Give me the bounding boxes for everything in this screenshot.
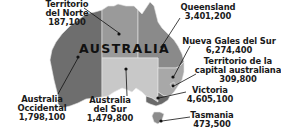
region-population: 1,479,800 <box>80 114 140 123</box>
label-victoria: Victoria 4,605,100 <box>184 86 236 104</box>
region-population: 6,274,400 <box>176 46 281 55</box>
label-south-australia: Australia del Sur 1,479,800 <box>80 96 140 124</box>
map-title: AUSTRALIA <box>79 41 170 56</box>
marker-south-australia <box>124 67 127 70</box>
marker-victoria <box>156 96 159 99</box>
label-new-south-wales: Nueva Gales del Sur 6,274,400 <box>176 37 281 55</box>
region-population: 4,605,100 <box>184 95 236 104</box>
label-act: Territorio de la capital australiana 309… <box>192 57 281 85</box>
region-population: 473,500 <box>186 120 238 129</box>
marker-northern-territory <box>117 32 120 35</box>
region-population: 1,798,100 <box>12 113 72 122</box>
label-western-australia: Australia Occidental 1,798,100 <box>12 95 72 123</box>
marker-new-south-wales <box>171 75 174 78</box>
label-northern-territory: Territorio del Norte 187,100 <box>36 0 98 28</box>
label-queensland: Queensland 3,401,200 <box>168 3 248 21</box>
label-tasmania: Tasmania 473,500 <box>186 111 238 129</box>
region-tasmania <box>152 112 164 124</box>
region-population: 309,800 <box>192 75 281 84</box>
marker-tasmania <box>159 119 162 122</box>
marker-act <box>172 85 175 88</box>
region-population: 3,401,200 <box>168 12 248 21</box>
region-population: 187,100 <box>36 18 98 27</box>
